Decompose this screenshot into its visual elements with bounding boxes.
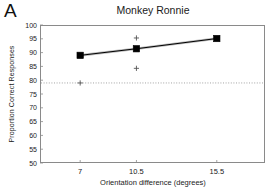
data-point-marker <box>133 46 139 52</box>
plot-graphics <box>0 0 273 193</box>
figure-panel: A Monkey Ronnie Proportion Correct Respo… <box>0 0 273 193</box>
data-point-marker <box>77 52 83 58</box>
data-point-marker <box>214 35 220 41</box>
series-line <box>80 39 217 56</box>
